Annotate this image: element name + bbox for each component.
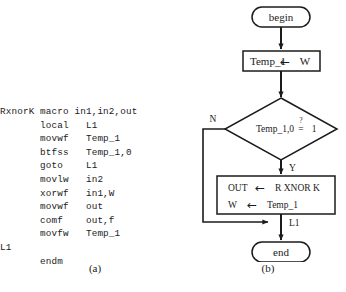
flow-end-label: end [273, 246, 289, 258]
flow-junction-label-l1: L1 [289, 218, 300, 228]
flow-process-w-target: W [228, 200, 237, 210]
flow-label-no: N [210, 114, 217, 124]
flow-node-end: end [252, 242, 310, 262]
flowchart-svg: begin Temp_1 ← W Temp_1,0 ? = 1 [190, 0, 346, 262]
subfigure-caption-b: (b) [190, 262, 346, 274]
flow-process-out-expression: R XNOR K [275, 183, 320, 193]
flow-assign-temp-source: W [300, 55, 311, 67]
flow-decision-equals: = [298, 124, 303, 134]
flowchart-panel: begin Temp_1 ← W Temp_1,0 ? = 1 [190, 0, 346, 262]
flow-process-w-expression: Temp_1 [267, 200, 298, 210]
flow-process-w-arrow-icon: ← [247, 198, 257, 212]
flow-decision-value: 1 [312, 124, 317, 134]
subfigure-caption-a: (a) [0, 262, 190, 274]
flow-label-yes: Y [289, 163, 296, 173]
code-listing-panel: RxnorK macro in1,in2,out local L1 movwf … [0, 105, 190, 265]
flow-node-process-xnor: OUT ← R XNOR K W ← Temp_1 [217, 176, 335, 214]
flow-begin-label: begin [269, 11, 294, 23]
flow-node-begin: begin [252, 7, 310, 27]
flow-assign-temp-arrow-icon: ← [280, 55, 290, 69]
flow-process-out-target: OUT [228, 183, 248, 193]
figure-container: RxnorK macro in1,in2,out local L1 movwf … [0, 0, 346, 292]
flow-node-decision: Temp_1,0 ? = 1 [225, 98, 337, 160]
flow-process-out-arrow-icon: ← [255, 181, 265, 195]
assembly-code-listing: RxnorK macro in1,in2,out local L1 movwf … [0, 105, 190, 268]
flow-decision-expression: Temp_1,0 [256, 124, 294, 134]
flow-node-assign-temp: Temp_1 ← W [243, 51, 320, 71]
